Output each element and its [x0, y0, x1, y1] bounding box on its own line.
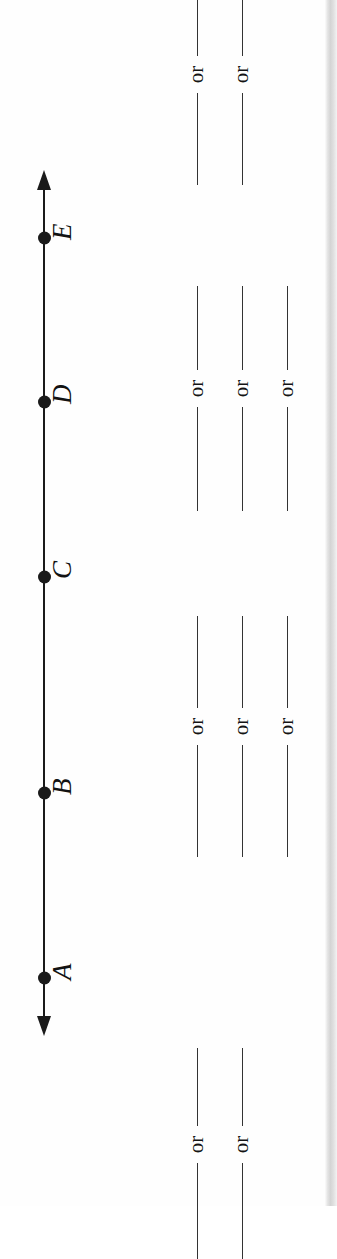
or-separator-label: or [228, 66, 257, 84]
number-line-label-d: D [49, 385, 76, 405]
answer-blank-line[interactable] [242, 745, 243, 857]
or-separator-label: or [183, 66, 212, 84]
answer-blank-line[interactable] [197, 745, 198, 857]
answer-blank-line[interactable] [197, 1163, 198, 1259]
answer-blank-group[interactable]: or [196, 1048, 198, 1259]
or-separator-label: or [228, 380, 257, 398]
answer-blank-line[interactable] [287, 407, 288, 511]
answer-blank-line[interactable] [242, 1048, 243, 1126]
page-edge-shadow [325, 0, 337, 1206]
answer-blank-line[interactable] [242, 1163, 243, 1259]
answer-blank-group[interactable]: or [241, 1048, 243, 1259]
answer-blank-line[interactable] [242, 407, 243, 511]
or-separator-label: or [228, 1136, 257, 1154]
answer-blank-group[interactable]: or [196, 616, 198, 857]
answer-blank-line[interactable] [197, 0, 198, 56]
answer-blank-line[interactable] [197, 1048, 198, 1126]
answer-blank-line[interactable] [242, 286, 243, 370]
answer-blank-group[interactable]: or [286, 616, 288, 857]
answer-blank-line[interactable] [287, 745, 288, 857]
answer-blank-group[interactable]: or [241, 616, 243, 857]
or-separator-label: or [183, 1136, 212, 1154]
answer-blank-line[interactable] [242, 616, 243, 708]
answer-blank-line[interactable] [287, 616, 288, 708]
or-separator-label: or [273, 718, 302, 736]
answer-blank-line[interactable] [197, 93, 198, 185]
or-separator-label: or [228, 718, 257, 736]
answer-blank-line[interactable] [197, 286, 198, 370]
number-line-label-c: C [49, 561, 76, 579]
answer-blank-group[interactable]: or [196, 0, 198, 185]
number-line-label-e: E [49, 224, 76, 241]
answer-blank-group[interactable]: or [196, 286, 198, 511]
answer-blank-group[interactable]: or [286, 286, 288, 511]
answer-blank-line[interactable] [197, 616, 198, 708]
answer-blank-group[interactable]: or [241, 0, 243, 185]
number-line [43, 172, 45, 1034]
or-separator-label: or [273, 380, 302, 398]
arrow-head-down-icon [37, 1016, 51, 1036]
answer-blank-line[interactable] [287, 286, 288, 370]
number-line-label-b: B [49, 779, 76, 796]
or-separator-label: or [183, 718, 212, 736]
number-line-label-a: A [49, 964, 76, 981]
answer-blank-group[interactable]: or [241, 286, 243, 511]
or-separator-label: or [183, 380, 212, 398]
number-line-axis [43, 186, 45, 1020]
answer-blank-line[interactable] [242, 0, 243, 56]
answer-blank-line[interactable] [242, 93, 243, 185]
answer-blank-line[interactable] [197, 407, 198, 511]
